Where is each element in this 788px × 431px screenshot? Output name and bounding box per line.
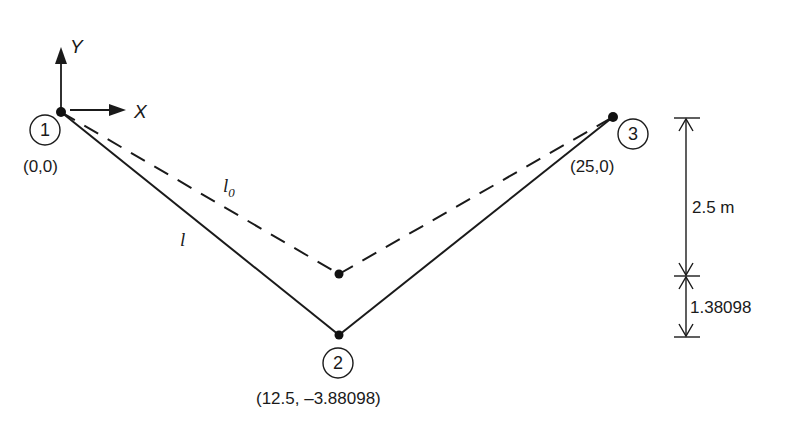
node-3-dot (608, 112, 618, 122)
node-2-dot (335, 331, 344, 340)
y-axis-arrow (55, 47, 67, 112)
deformed-geometry-solid (61, 112, 613, 335)
node-1-id: 1 (40, 120, 50, 140)
original-length-label: l0 (223, 175, 235, 200)
node-3-coord: (25,0) (570, 157, 614, 176)
x-axis-label: X (133, 101, 148, 122)
original-node-2-dot (335, 270, 344, 279)
node-3-id: 3 (628, 124, 638, 144)
deformed-length-label: l (180, 229, 185, 250)
node-2-marker: 2 (323, 348, 353, 378)
dimension-lower-label: 1.38098 (690, 298, 751, 317)
original-geometry-dashed (61, 112, 613, 274)
node-3-marker: 3 (618, 119, 648, 149)
dimension-upper (674, 118, 700, 276)
cable-truss-diagram: Y X 1 (0,0) 2 (12.5, –3.88098) 3 (25,0) … (0, 0, 788, 431)
node-1-marker: 1 (30, 115, 60, 145)
node-1-coord: (0,0) (23, 157, 58, 176)
node-2-coord: (12.5, –3.88098) (256, 389, 381, 408)
node-1-dot (56, 107, 66, 117)
dimension-upper-label: 2.5 m (692, 198, 735, 217)
node-2-id: 2 (333, 353, 343, 373)
y-axis-label: Y (70, 36, 84, 57)
x-axis-arrow (70, 104, 126, 116)
